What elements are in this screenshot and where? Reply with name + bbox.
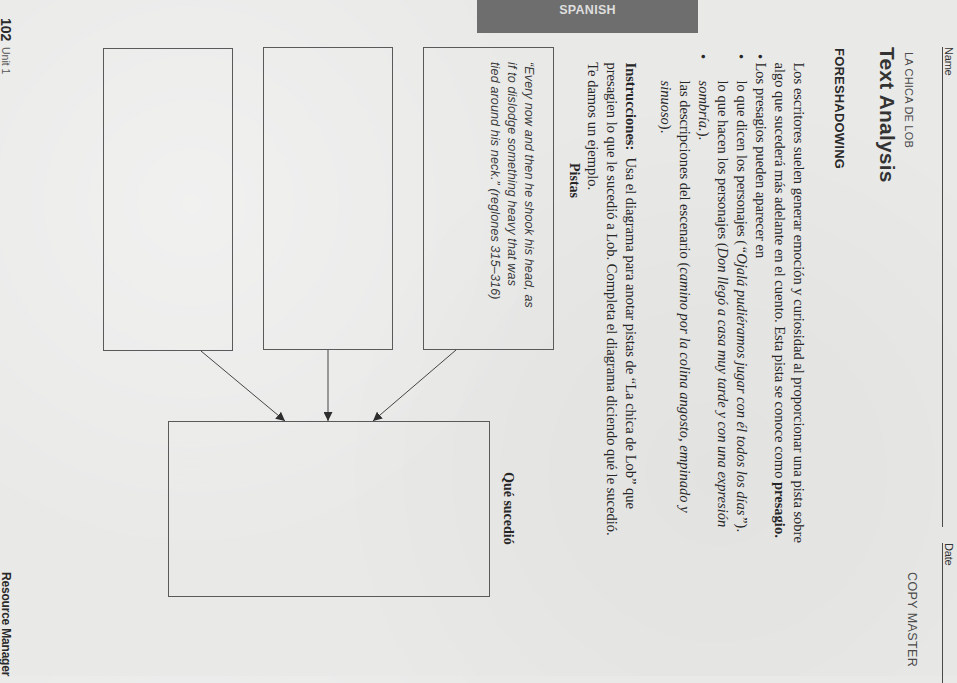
book-title: Resource Manager: [0, 572, 14, 676]
arrow-clue-3-to-result: [201, 351, 285, 421]
unit-label: Unit 1: [0, 47, 13, 74]
page-number: 102: [0, 18, 14, 41]
arrow-clue-1-to-result: [373, 350, 456, 421]
